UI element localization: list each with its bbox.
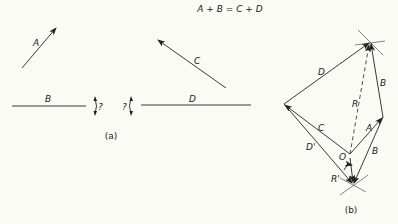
- point-o-label: O: [339, 152, 346, 162]
- unknown-direction-mark-d: ?: [122, 96, 133, 116]
- vector-d-prime: [284, 104, 352, 183]
- construction-arc: [358, 30, 383, 55]
- equation: A + B = C + D: [196, 4, 262, 14]
- vector-d-label: D: [318, 67, 325, 77]
- resultant-r-prime-label: R': [331, 174, 340, 184]
- svg-text:?: ?: [122, 102, 127, 112]
- resultant-r-label: R: [352, 99, 358, 109]
- vector-b-lower-label: B: [372, 146, 378, 156]
- svg-text:?: ?: [98, 102, 103, 112]
- vector-a-label: A: [32, 38, 39, 48]
- vector-diagram: A + B = C + D A B ? ? C D (a): [0, 0, 398, 224]
- vector-a-label: A: [365, 123, 372, 133]
- resultant-r-prime: [350, 158, 353, 182]
- vector-b-label: B: [380, 78, 386, 88]
- part-b: D B R A C D' B R' O (b): [284, 30, 386, 215]
- vector-c-arrow: [158, 40, 226, 88]
- vector-a-arrow: [22, 28, 56, 68]
- construction-arc: [340, 175, 368, 195]
- vector-c-label: C: [318, 123, 325, 133]
- vector-c-label: C: [194, 56, 201, 66]
- vector-b-label: B: [45, 94, 51, 104]
- caption-b: (b): [345, 205, 358, 215]
- caption-a: (a): [105, 131, 118, 141]
- part-a: A B ? ? C D (a): [12, 28, 251, 141]
- vector-d-label: D: [189, 94, 196, 104]
- vector-d-prime-label: D': [306, 142, 315, 152]
- vector-d: [284, 43, 369, 104]
- unknown-direction-mark-b: ?: [94, 96, 104, 116]
